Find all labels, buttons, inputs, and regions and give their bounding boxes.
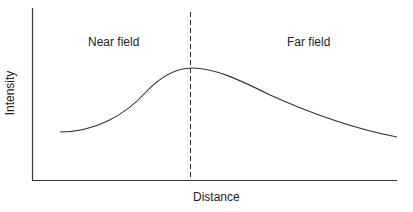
intensity-curve bbox=[60, 68, 397, 137]
far-field-label: Far field bbox=[287, 35, 330, 49]
diagram-canvas bbox=[0, 0, 413, 212]
near-field-label: Near field bbox=[88, 35, 139, 49]
y-axis-label: Intensity bbox=[3, 71, 17, 116]
x-axis-label: Distance bbox=[193, 190, 240, 204]
